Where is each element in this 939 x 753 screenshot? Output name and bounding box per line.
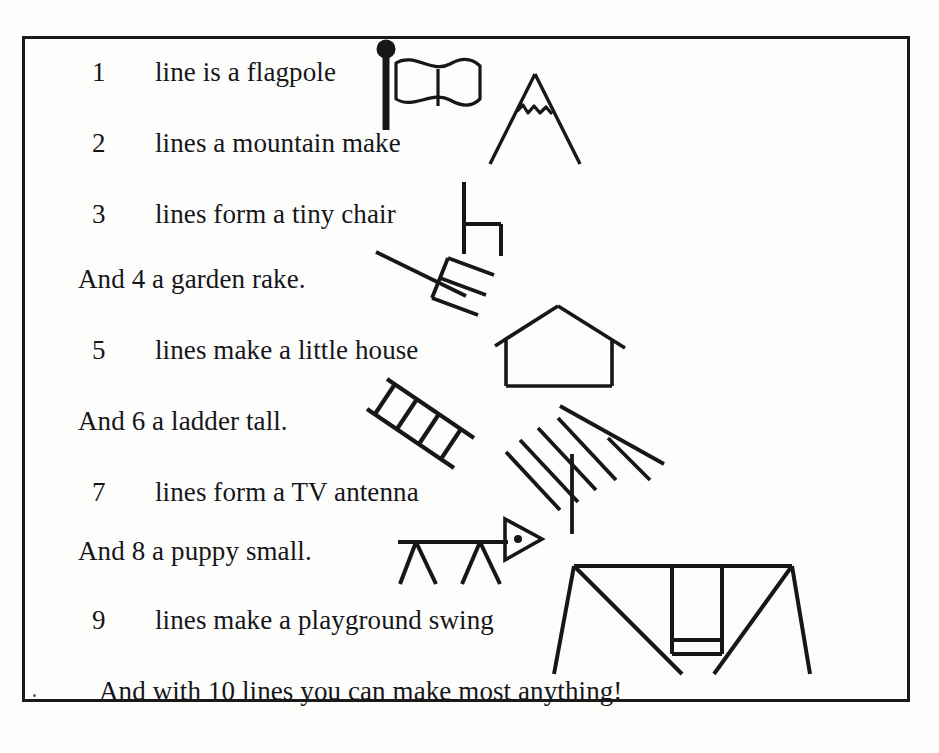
poem-line-text-9: lines make a playground swing bbox=[155, 607, 494, 634]
puppy-head-icon bbox=[505, 519, 542, 560]
illustration-puppy bbox=[392, 512, 552, 602]
poem-line-text-1: line is a flagpole bbox=[155, 59, 336, 86]
puppy-leg-3-icon bbox=[462, 542, 480, 584]
antenna-element-2-icon bbox=[538, 428, 596, 490]
illustration-house bbox=[492, 288, 672, 398]
ladder-rung-3-icon bbox=[419, 414, 439, 444]
swing-leg-1-icon bbox=[554, 566, 574, 674]
ladder-rung-1-icon bbox=[375, 384, 395, 414]
illustration-flagpole bbox=[370, 38, 490, 138]
poem-line-number-1: 1 bbox=[92, 59, 106, 86]
puppy-leg-2-icon bbox=[416, 542, 436, 584]
ladder-rung-4-icon bbox=[441, 429, 461, 459]
swing-leg-3-icon bbox=[714, 566, 792, 674]
poem-line-text-10: And with 10 lines you can make most anyt… bbox=[99, 678, 622, 705]
antenna-element-4-icon bbox=[506, 452, 560, 510]
antenna-element-1-icon bbox=[558, 418, 616, 480]
poem-line-number-3: 3 bbox=[92, 201, 106, 228]
poem-line-text-2: lines a mountain make bbox=[155, 130, 401, 157]
antenna-element-3-icon bbox=[520, 440, 578, 502]
poem-line-text-8: And 8 a puppy small. bbox=[78, 538, 312, 565]
page-canvas: 1 line is a flagpole 2 lines a mountain … bbox=[0, 0, 939, 753]
swing-leg-2-icon bbox=[574, 566, 682, 674]
puppy-leg-4-icon bbox=[480, 542, 500, 584]
poem-line-number-9: 9 bbox=[92, 607, 106, 634]
mountain-right-slope-icon bbox=[535, 74, 580, 164]
illustration-mountain bbox=[484, 66, 594, 171]
mountain-snowline-icon bbox=[517, 105, 552, 114]
poem-line-text-7: lines form a TV antenna bbox=[155, 479, 419, 506]
puppy-eye-icon bbox=[514, 535, 522, 543]
ladder-rung-2-icon bbox=[397, 399, 417, 429]
poem-line-text-6: And 6 a ladder tall. bbox=[78, 408, 288, 435]
mountain-left-slope-icon bbox=[490, 74, 535, 164]
illustration-swing bbox=[552, 556, 812, 686]
poem-line-text-4: And 4 a garden rake. bbox=[78, 266, 306, 293]
poem-line-number-2: 2 bbox=[92, 130, 106, 157]
house-roof-right-icon bbox=[558, 306, 625, 348]
illustration-ladder bbox=[362, 376, 512, 481]
poem-line-text-3: lines form a tiny chair bbox=[155, 201, 396, 228]
poem-line-number-7: 7 bbox=[92, 479, 106, 506]
page-speck bbox=[33, 694, 36, 697]
poem-line-number-5: 5 bbox=[92, 337, 106, 364]
rake-tine-3-icon bbox=[432, 298, 478, 315]
rake-tine-1-icon bbox=[448, 258, 494, 275]
puppy-leg-1-icon bbox=[400, 542, 416, 584]
swing-leg-4-icon bbox=[792, 566, 810, 674]
